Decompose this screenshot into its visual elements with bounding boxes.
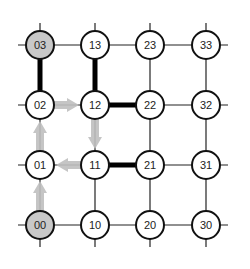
node-label: 23 xyxy=(144,39,156,51)
node-32: 32 xyxy=(192,91,220,119)
node-label: 00 xyxy=(34,219,46,231)
node-label: 22 xyxy=(144,99,156,111)
node-label: 10 xyxy=(89,219,101,231)
node-12: 12 xyxy=(81,91,109,119)
node-13: 13 xyxy=(81,31,109,59)
node-00: 00 xyxy=(26,211,54,239)
node-03: 03 xyxy=(26,31,54,59)
node-02: 02 xyxy=(26,91,54,119)
node-21: 21 xyxy=(136,151,164,179)
node-20: 20 xyxy=(136,211,164,239)
node-label: 11 xyxy=(89,159,100,171)
node-label: 33 xyxy=(200,39,212,51)
path-arrow-00-to-01-icon xyxy=(33,181,47,211)
path-arrow-02-to-12-icon xyxy=(54,98,79,112)
node-30: 30 xyxy=(192,211,220,239)
node-23: 23 xyxy=(136,31,164,59)
node-label: 02 xyxy=(34,99,46,111)
node-01: 01 xyxy=(26,151,54,179)
node-11: 11 xyxy=(81,151,109,179)
nodes: 00010203101112132021222330313233 xyxy=(26,31,220,239)
node-label: 32 xyxy=(200,99,212,111)
node-label: 30 xyxy=(200,219,212,231)
node-label: 21 xyxy=(144,159,156,171)
node-33: 33 xyxy=(192,31,220,59)
node-label: 01 xyxy=(34,159,46,171)
node-label: 03 xyxy=(34,39,46,51)
node-label: 20 xyxy=(144,219,156,231)
path-arrow-12-to-11-icon xyxy=(88,119,102,149)
path-arrow-11-to-01-icon xyxy=(56,158,81,172)
node-10: 10 xyxy=(81,211,109,239)
grid-network-diagram: 00010203101112132021222330313233 xyxy=(0,0,250,269)
node-22: 22 xyxy=(136,91,164,119)
path-arrow-01-to-02-icon xyxy=(33,121,47,151)
node-label: 13 xyxy=(89,39,101,51)
node-label: 12 xyxy=(89,99,101,111)
node-31: 31 xyxy=(192,151,220,179)
node-label: 31 xyxy=(200,159,212,171)
